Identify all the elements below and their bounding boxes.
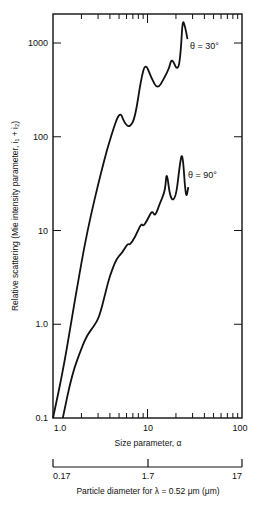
y-tick-label-1000: 1000 [28,38,48,48]
y-tick-label-1: 1.0 [35,319,48,329]
y-tick-label-100: 100 [33,132,48,142]
curve-theta-90 [63,156,189,418]
curve-theta-30 [53,22,188,418]
secondary-tick-label-1.7: 1.7 [142,471,155,481]
y-tick-label-0.1: 0.1 [35,413,48,423]
y-axis-title: Relative scattering (Mie intensity param… [10,121,20,311]
chart-canvas: 1000 100 10 1.0 0.1 1.0 10 100 Size para… [0,0,264,506]
annotation-theta-30: θ = 30° [190,41,219,51]
x-tick-label-10: 10 [143,423,153,433]
x-ticks [81,14,237,418]
secondary-axis-title: Particle diameter for λ = 0.52 μm (μm) [76,486,219,496]
y-ticks [53,43,242,324]
secondary-tick-label-17: 17 [232,471,242,481]
plot-frame [53,14,242,418]
x-tick-label-100: 100 [232,423,247,433]
curves [53,22,188,418]
x-axis-title: Size parameter, α [115,438,182,448]
y-tick-label-10: 10 [38,226,48,236]
x-tick-label-1: 1.0 [54,423,67,433]
secondary-tick-label-0.17: 0.17 [53,471,71,481]
annotation-theta-90: θ = 90° [188,170,217,180]
